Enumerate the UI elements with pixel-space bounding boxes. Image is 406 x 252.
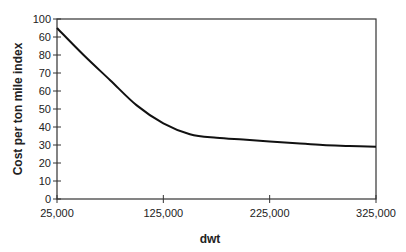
x-tick-label: 225,000 — [250, 207, 290, 219]
plot-area: 010203040506070806010025,000125,000225,0… — [33, 13, 396, 219]
y-tick-label: 60 — [39, 31, 51, 43]
y-tick-label: 30 — [39, 139, 51, 151]
x-axis-label: dwt — [200, 232, 221, 246]
y-tick-label: 60 — [39, 85, 51, 97]
y-tick-label: 20 — [39, 157, 51, 169]
y-tick-label: 10 — [39, 175, 51, 187]
y-tick-label: 40 — [39, 121, 51, 133]
x-tick-label: 125,000 — [143, 207, 183, 219]
y-tick-label: 0 — [45, 193, 51, 205]
x-tick-label: 325,000 — [356, 207, 396, 219]
y-tick-label: 80 — [39, 49, 51, 61]
line-chart: 010203040506070806010025,000125,000225,0… — [0, 0, 406, 252]
y-tick-label: 100 — [33, 13, 51, 25]
plot-frame — [57, 19, 376, 199]
y-axis-label: Cost per ton mile index — [11, 42, 25, 175]
y-tick-label: 70 — [39, 67, 51, 79]
y-tick-label: 50 — [39, 103, 51, 115]
x-tick-label: 25,000 — [40, 207, 74, 219]
cost-curve — [57, 28, 376, 147]
